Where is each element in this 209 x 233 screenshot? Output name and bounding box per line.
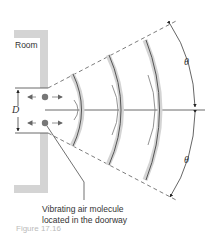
wall-bottom xyxy=(14,133,48,193)
angle-arc-top xyxy=(170,24,195,107)
air-molecule-top xyxy=(28,94,62,100)
opening-width-label: D xyxy=(12,104,19,115)
molecule-caption-line1: Vibrating air molecule xyxy=(42,204,162,215)
wall-top xyxy=(14,30,48,88)
figure-caption: Figure 17.16 xyxy=(16,224,61,233)
angle-label-bottom: θ xyxy=(184,154,189,165)
molecule-caption: Vibrating air molecule located in the do… xyxy=(42,204,162,225)
angle-label-top: θ xyxy=(184,56,189,67)
angle-arc-bottom xyxy=(170,113,195,197)
room-label: Room xyxy=(15,40,38,50)
air-molecule-bottom xyxy=(28,120,62,126)
diffraction-diagram xyxy=(0,0,209,233)
